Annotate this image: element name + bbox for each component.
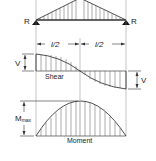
left-reaction-label: R xyxy=(24,17,30,26)
shear-diagram xyxy=(22,54,141,89)
moment-label: Moment xyxy=(67,137,92,144)
shear-label: Shear xyxy=(45,73,64,80)
shear-left-value-label: V xyxy=(15,59,21,68)
shear-right-value-label: V xyxy=(141,76,147,85)
load-diagram xyxy=(36,0,126,20)
right-reaction-label: R xyxy=(131,17,137,26)
right-half-span-label: l/2 xyxy=(95,40,104,49)
moment-max-label: Mmax xyxy=(15,114,32,123)
left-half-span-label: l/2 xyxy=(51,40,60,49)
beam-diagram: R R l/2 l/2 xyxy=(0,0,156,161)
